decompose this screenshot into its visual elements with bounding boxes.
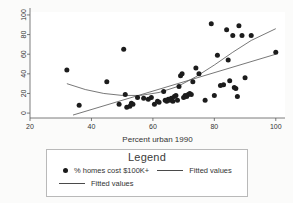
y-tick-label: 20	[20, 89, 27, 97]
scatter-point	[233, 86, 238, 91]
scatter-point	[104, 79, 109, 84]
legend-entry-scatter[interactable]: % homes cost $100K+	[51, 166, 149, 175]
scatter-plot-figure: 02040608010020406080100 Percent urban 19…	[0, 0, 293, 145]
legend-title: Legend	[47, 150, 247, 164]
chart-root: 02040608010020406080100 Percent urban 19…	[0, 0, 293, 203]
scatter-point	[221, 82, 226, 87]
filled-circle-icon	[63, 168, 68, 173]
legend-entry-fit-2[interactable]: Fitted values	[51, 179, 147, 188]
scatter-point	[190, 79, 195, 84]
scatter-point	[273, 50, 278, 55]
scatter-point	[215, 53, 220, 58]
scatter-point	[227, 78, 232, 83]
x-tick-label: 80	[210, 123, 218, 130]
scatter-point	[177, 84, 182, 89]
legend-box: Legend % homes cost $100K+ Fitted values…	[46, 149, 248, 197]
y-tick-label: 60	[20, 50, 27, 58]
scatter-point	[196, 71, 201, 76]
scatter-point	[189, 92, 194, 97]
y-tick-label: 40	[20, 70, 27, 78]
scatter-point	[226, 58, 231, 63]
legend-label: % homes cost $100K+	[74, 166, 149, 175]
scatter-point	[175, 98, 180, 103]
scatter-point	[249, 33, 254, 38]
scatter-point	[235, 94, 240, 99]
x-tick-label: 60	[149, 123, 157, 130]
chart-canvas: 02040608010020406080100 Percent urban 19…	[0, 0, 293, 145]
line-swatch-icon	[157, 170, 183, 171]
x-tick-label: 40	[88, 123, 96, 130]
scatter-point	[239, 33, 244, 38]
scatter-point	[77, 103, 82, 108]
scatter-point	[135, 95, 140, 100]
scatter-point	[243, 75, 248, 80]
scatter-point	[230, 33, 235, 38]
line-swatch-icon	[59, 183, 85, 184]
scatter-point	[224, 27, 229, 32]
scatter-point	[180, 71, 185, 76]
x-tick-label: 100	[270, 123, 282, 130]
scatter-point	[203, 98, 208, 103]
y-tick-label: 80	[20, 31, 27, 39]
legend-entry-fit-1[interactable]: Fitted values	[149, 166, 243, 175]
scatter-point	[64, 67, 69, 72]
scatter-point	[173, 93, 178, 98]
y-tick-label: 0	[20, 111, 27, 115]
scatter-point	[130, 102, 135, 107]
legend-row: % homes cost $100K+ Fitted values	[51, 164, 243, 177]
scatter-point	[121, 47, 126, 52]
scatter-point	[193, 65, 198, 70]
legend-label: Fitted values	[91, 179, 134, 188]
legend-row: Fitted values	[51, 177, 243, 190]
legend-entries: % homes cost $100K+ Fitted values Fitted…	[47, 164, 247, 190]
scatter-point	[212, 93, 217, 98]
scatter-point	[117, 102, 122, 107]
legend-label: Fitted values	[189, 166, 232, 175]
scatter-point	[209, 21, 214, 26]
scatter-point	[123, 92, 128, 97]
scatter-point	[149, 95, 154, 100]
x-tick-label: 20	[26, 123, 34, 130]
x-axis-title: Percent urban 1990	[122, 135, 193, 144]
scatter-point	[161, 89, 166, 94]
scatter-point	[170, 99, 175, 104]
scatter-point	[141, 96, 146, 101]
scatter-point	[157, 100, 162, 105]
scatter-point	[236, 23, 241, 28]
y-tick-label: 100	[20, 9, 27, 21]
